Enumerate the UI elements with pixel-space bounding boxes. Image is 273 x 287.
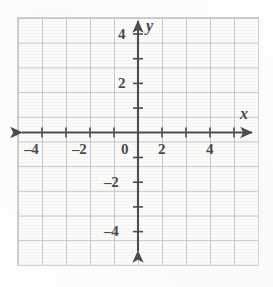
coordinate-plane-figure: –4 –2 2 4 0 4 2 –2 –4 x y	[0, 0, 273, 287]
x-tick-label-4: 4	[206, 142, 213, 157]
x-tick-label-2: 2	[158, 142, 165, 157]
y-tick-label-2: 2	[118, 76, 125, 91]
axes-layer	[0, 0, 273, 287]
x-axis-name: x	[240, 106, 248, 122]
y-axis-name: y	[146, 18, 153, 34]
x-tick-label-neg4: –4	[24, 142, 38, 157]
y-tick-label-neg2: –2	[104, 175, 118, 190]
origin-label: 0	[121, 142, 128, 157]
y-tick-label-4: 4	[118, 27, 125, 42]
y-tick-label-neg4: –4	[104, 224, 118, 239]
x-tick-label-neg2: –2	[72, 142, 86, 157]
